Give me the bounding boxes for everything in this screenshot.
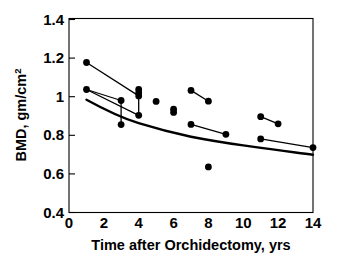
x-tick-label-6: 12 (270, 214, 287, 231)
data-point (310, 144, 317, 151)
data-point (188, 87, 195, 94)
x-tick-label-4: 8 (204, 214, 212, 231)
pair-connector (87, 63, 139, 96)
y-axis-title-group: BMD, gm/cm2 (12, 68, 29, 161)
data-point (257, 136, 264, 143)
x-tick-label-5: 10 (235, 214, 252, 231)
pair-connector (261, 139, 313, 148)
data-point (188, 121, 195, 128)
pair-connector (87, 90, 122, 101)
y-tick-label-2: 0.8 (43, 126, 64, 143)
plot-frame (69, 19, 313, 213)
data-point (118, 97, 125, 104)
x-tick-label-3: 6 (169, 214, 177, 231)
x-axis-title: Time after Orchidectomy, yrs (91, 237, 290, 253)
data-point (257, 113, 264, 120)
x-tick-label-7: 14 (305, 214, 322, 231)
data-point (135, 112, 142, 119)
data-point (205, 98, 212, 105)
y-axis-ticks (69, 20, 75, 213)
data-point (118, 121, 125, 128)
bmd-scatter-figure: 0.4 0.6 0.8 1 1.2 1.4 0 2 4 6 8 10 12 14… (0, 0, 341, 264)
data-point (153, 98, 160, 105)
y-axis-title-superscript: 2 (12, 68, 23, 73)
y-axis-tick-labels: 0.4 0.6 0.8 1 1.2 1.4 (43, 11, 65, 221)
x-tick-label-0: 0 (65, 214, 73, 231)
data-point (275, 120, 282, 127)
pair-connector (87, 90, 139, 116)
data-point (223, 131, 230, 138)
y-tick-label-4: 1.2 (43, 49, 64, 66)
pair-connectors (87, 63, 314, 148)
x-tick-label-1: 2 (100, 214, 108, 231)
data-point (83, 59, 90, 66)
y-axis-title: BMD, gm/cm2 (12, 68, 29, 161)
y-tick-label-3: 1 (56, 88, 64, 105)
y-tick-label-0: 0.4 (43, 204, 65, 221)
data-point (135, 93, 142, 100)
chart-canvas: 0.4 0.6 0.8 1 1.2 1.4 0 2 4 6 8 10 12 14… (0, 0, 341, 264)
y-tick-label-5: 1.4 (43, 11, 65, 28)
pair-connector (191, 124, 226, 134)
data-point (205, 164, 212, 171)
data-point (170, 109, 177, 116)
y-axis-title-base: BMD, gm/cm (13, 74, 29, 162)
x-axis-tick-labels: 0 2 4 6 8 10 12 14 (65, 214, 322, 231)
x-tick-label-2: 4 (135, 214, 144, 231)
data-point (83, 86, 90, 93)
y-tick-label-1: 0.6 (43, 165, 64, 182)
